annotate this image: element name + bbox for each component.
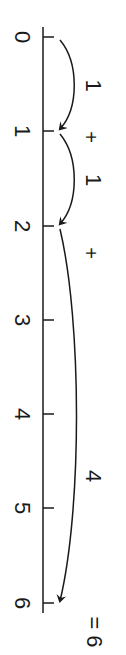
tick-label: 5 [10,502,35,514]
tick-label: 1 [10,125,35,137]
jump-label: 1 [81,174,106,186]
jump-label: 1 [81,79,106,91]
number-line-diagram: 0123456 114 ++= 6 [0,0,126,655]
result-label: = 6 [82,616,107,647]
tick-label: 2 [10,220,35,232]
plus-operator: + [80,131,102,143]
jump-arrow [60,229,77,601]
plus-operator: + [80,247,102,259]
jump-arrow [60,134,74,224]
jump-arrow [60,40,74,129]
tick-label: 4 [10,408,35,420]
tick-label: 6 [10,597,35,609]
tick-label: 0 [10,31,35,43]
jump-label: 4 [81,470,106,482]
tick-label: 3 [10,314,35,326]
